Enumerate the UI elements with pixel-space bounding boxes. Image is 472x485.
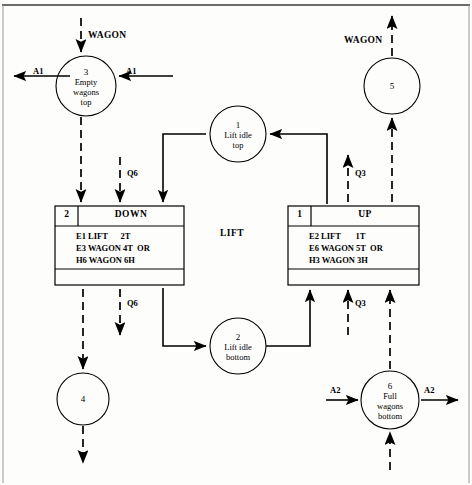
arc-up-to-lift-idle-top bbox=[270, 134, 327, 204]
arc-down-to-lift-idle-bottom bbox=[163, 288, 206, 346]
place-2-lift-idle-bottom bbox=[210, 318, 266, 374]
arc-label-q3-top: Q3 bbox=[355, 169, 366, 178]
transition-up-guard-1: E2 LIFT 1T bbox=[309, 231, 366, 242]
arc-label-a2-left: A2 bbox=[330, 386, 340, 395]
transition-up-name: UP bbox=[311, 210, 419, 220]
arc-label-a1-right: A1 bbox=[126, 67, 136, 76]
arc-lift-idle-bottom-to-up bbox=[266, 290, 310, 346]
place-5 bbox=[364, 58, 420, 114]
center-lift-label: LIFT bbox=[220, 229, 244, 239]
transition-down-name: DOWN bbox=[78, 210, 184, 220]
transition-up-guard-2: E6 WAGON 5T OR bbox=[309, 243, 383, 254]
diagram-canvas: 3 Empty wagons top 1 Lift idle top 5 2 L… bbox=[0, 0, 472, 485]
arc-label-a2-right: A2 bbox=[424, 386, 434, 395]
io-label-wagon-in: WAGON bbox=[88, 31, 126, 41]
arc-label-a1-left: A1 bbox=[33, 67, 43, 76]
transition-down-guard-1: E1 LIFT 2T bbox=[76, 231, 130, 242]
arc-label-q6-top: Q6 bbox=[127, 169, 138, 178]
transition-down-guard-2: E3 WAGON 4T OR bbox=[76, 243, 150, 254]
transition-up-guard-3: H3 WAGON 3H bbox=[309, 255, 368, 266]
transition-down-guard-3: H6 WAGON 6H bbox=[76, 255, 135, 266]
transition-up-id: 1 bbox=[288, 210, 311, 220]
place-1-lift-idle-top bbox=[210, 106, 266, 162]
place-4 bbox=[57, 373, 109, 425]
transition-down-id: 2 bbox=[55, 210, 78, 220]
arc-lift-idle-top-to-down bbox=[163, 134, 206, 202]
place-3-empty-wagons-top bbox=[56, 56, 116, 116]
diagram-vector-layer bbox=[0, 0, 472, 485]
place-6-full-wagons-bottom bbox=[361, 371, 419, 429]
io-label-wagon-out: WAGON bbox=[344, 36, 382, 46]
arc-label-q3-bottom: Q3 bbox=[355, 299, 366, 308]
arc-label-q6-bottom: Q6 bbox=[127, 299, 138, 308]
page-frame bbox=[2, 5, 470, 483]
